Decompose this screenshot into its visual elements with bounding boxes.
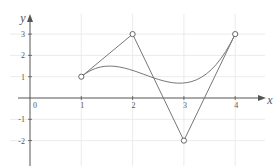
control-point-marker [130, 31, 135, 36]
control-point-marker [79, 74, 84, 79]
y-axis-label: y [19, 11, 26, 25]
y-tick-label: 2 [21, 51, 25, 60]
y-tick-label: -1 [18, 115, 25, 124]
y-axis-arrow-icon [27, 14, 33, 22]
x-tick-label: 1 [80, 101, 84, 110]
x-tick-label: 2 [132, 101, 136, 110]
origin-label: 0 [33, 101, 37, 110]
y-tick-label: -2 [18, 137, 25, 146]
x-axis-arrow-icon [258, 95, 266, 101]
bezier-chart: 1234321-1-20xy [0, 0, 277, 166]
x-tick-label: 4 [234, 101, 238, 110]
grid [10, 14, 265, 166]
y-tick-label: 3 [21, 30, 25, 39]
series [79, 31, 238, 143]
axes [18, 14, 266, 166]
x-axis-label: x [266, 93, 273, 107]
x-tick-label: 3 [183, 101, 187, 110]
bezier-curve [81, 34, 235, 83]
y-tick-label: 1 [21, 73, 25, 82]
control-point-marker [181, 138, 186, 143]
control-polygon [81, 34, 235, 141]
control-point-marker [233, 31, 238, 36]
